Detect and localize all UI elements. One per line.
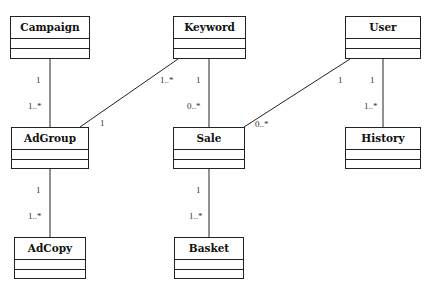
class-operations xyxy=(346,49,420,58)
class-basket[interactable]: Basket xyxy=(174,237,244,279)
multiplicity-sale-basket-top: 1 xyxy=(196,185,201,195)
edge-user-sale xyxy=(244,59,350,127)
class-adgroup[interactable]: AdGroup xyxy=(11,127,89,169)
class-operations xyxy=(174,49,245,58)
class-operations xyxy=(11,49,89,58)
class-attributes xyxy=(12,150,88,160)
class-operations xyxy=(15,270,85,278)
class-name: History xyxy=(346,128,420,150)
class-operations xyxy=(175,270,243,278)
multiplicity-keyword-sale-top: 1 xyxy=(196,75,201,85)
class-sale[interactable]: Sale xyxy=(173,127,245,169)
multiplicity-adgroup-adcopy-bottom: 1..* xyxy=(28,211,42,221)
class-adcopy[interactable]: AdCopy xyxy=(14,237,86,279)
class-name: Basket xyxy=(175,238,243,260)
class-attributes xyxy=(174,150,244,160)
edge-keyword-adgroup xyxy=(80,59,178,127)
multiplicity-keyword-adgroup-bottom: 1 xyxy=(100,118,105,128)
multiplicity-user-sale-top: 1 xyxy=(338,75,343,85)
class-name: Keyword xyxy=(174,17,245,39)
class-user[interactable]: User xyxy=(345,16,421,59)
class-name: Campaign xyxy=(11,17,89,39)
class-operations xyxy=(174,160,244,168)
class-name: User xyxy=(346,17,420,39)
class-operations xyxy=(12,160,88,168)
multiplicity-campaign-adgroup-top: 1 xyxy=(36,75,41,85)
class-history[interactable]: History xyxy=(345,127,421,169)
class-attributes xyxy=(174,39,245,49)
multiplicity-keyword-adgroup-top: 1..* xyxy=(160,75,174,85)
class-operations xyxy=(346,160,420,168)
class-name: Sale xyxy=(174,128,244,150)
multiplicity-sale-basket-bottom: 1..* xyxy=(189,211,203,221)
class-name: AdCopy xyxy=(15,238,85,260)
multiplicity-keyword-sale-bottom: 0..* xyxy=(187,101,201,111)
class-campaign[interactable]: Campaign xyxy=(10,16,90,59)
class-attributes xyxy=(11,39,89,49)
class-keyword[interactable]: Keyword xyxy=(173,16,246,59)
class-name: AdGroup xyxy=(12,128,88,150)
class-attributes xyxy=(346,39,420,49)
multiplicity-user-history-top: 1 xyxy=(370,75,375,85)
class-attributes xyxy=(15,260,85,270)
multiplicity-campaign-adgroup-bottom: 1..* xyxy=(28,101,42,111)
multiplicity-adgroup-adcopy-top: 1 xyxy=(36,185,41,195)
multiplicity-user-sale-bottom: 0..* xyxy=(255,119,269,129)
multiplicity-user-history-bottom: 1..* xyxy=(364,101,378,111)
class-attributes xyxy=(175,260,243,270)
class-attributes xyxy=(346,150,420,160)
